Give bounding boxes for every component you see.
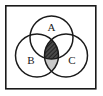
set-label-b: B [27,54,34,66]
set-label-a: A [48,21,56,33]
set-label-c: C [68,54,75,66]
venn-diagram-canvas: A B C [0,0,103,96]
venn-diagram-figure: A B C [0,0,103,96]
